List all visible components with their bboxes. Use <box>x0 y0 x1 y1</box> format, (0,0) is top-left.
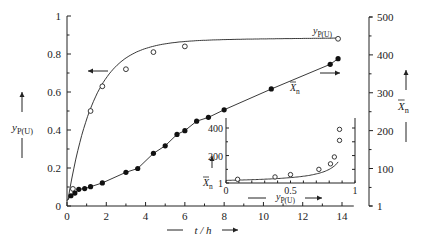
data-point-xn <box>328 62 333 67</box>
inset-data-point <box>337 127 341 131</box>
right-tick-label: 500 <box>377 11 394 23</box>
inset-curve <box>226 162 338 181</box>
x-tick-label: 2 <box>104 210 110 222</box>
inset-y-tick-label: 1 <box>218 178 223 189</box>
x-tick-label: 4 <box>143 210 149 222</box>
svg-text:Xn: Xn <box>397 100 409 115</box>
inset-data-point <box>332 155 336 159</box>
right-tick-label: 400 <box>377 49 394 61</box>
left-tick-label: 0.6 <box>47 86 61 98</box>
data-point-xn <box>194 119 199 124</box>
data-point-yp <box>336 36 341 41</box>
inset-data-point <box>288 172 292 176</box>
right-axis-label: Xn <box>397 100 409 115</box>
svg-text:yP(U): yP(U) <box>11 121 33 136</box>
svg-text:yP(U): yP(U) <box>312 25 333 39</box>
x-tick-label: 10 <box>258 210 270 222</box>
inset-data-point <box>328 162 332 166</box>
data-point-xn <box>222 107 227 112</box>
data-point-xn <box>123 170 128 175</box>
svg-text:Xn: Xn <box>202 177 213 191</box>
left-axis-label: yP(U) <box>11 121 33 136</box>
right-arrow-icon <box>320 71 340 76</box>
curve-label-yp: yP(U) <box>312 25 333 39</box>
curve-label-xn: Xn <box>289 82 300 96</box>
data-point-xn <box>82 186 87 191</box>
svg-text:Xn: Xn <box>289 82 300 96</box>
data-point-yp <box>124 67 129 72</box>
x-axis-label: t / h <box>194 224 212 236</box>
left-tick-label: 0.4 <box>47 124 61 136</box>
data-point-yp <box>182 44 187 49</box>
inset-data-point <box>273 175 277 179</box>
inset-y-tick-label: 400 <box>208 123 223 134</box>
data-point-xn <box>76 187 81 192</box>
right-arrow-icon <box>305 196 322 201</box>
inset-y-label: Xn <box>202 177 213 191</box>
data-point-xn <box>151 151 156 156</box>
x-tick-label: 0 <box>64 210 70 222</box>
data-point-xn <box>88 184 93 189</box>
main-axes: 00.20.40.60.8102468101214110020030040050… <box>47 10 394 222</box>
data-point-xn <box>182 128 187 133</box>
data-point-yp <box>151 50 156 55</box>
data-point-xn <box>335 56 340 61</box>
data-point-xn <box>135 166 140 171</box>
data-point-xn <box>72 191 77 196</box>
x-tick-label: 8 <box>221 210 227 222</box>
left-arrow-icon <box>88 69 108 74</box>
inset-data-point <box>317 167 321 171</box>
left-tick-label: 1 <box>56 10 62 22</box>
left-tick-label: 0.2 <box>47 162 61 174</box>
data-point-xn <box>174 132 179 137</box>
inset-data-point <box>235 177 239 181</box>
inset-x-tick-label: 0 <box>224 185 229 196</box>
data-point-xn <box>100 180 105 185</box>
right-tick-label: 200 <box>377 125 394 137</box>
left-tick-label: 0 <box>56 200 62 212</box>
data-point-xn <box>269 86 274 91</box>
data-point-yp <box>88 109 93 114</box>
up-arrow-icon <box>404 70 409 90</box>
x-tick-label: 12 <box>297 210 308 222</box>
data-point-xn <box>163 143 168 148</box>
inset-chart: 00.511200400XnyP(U) <box>202 118 358 205</box>
right-tick-label: 300 <box>377 87 394 99</box>
up-arrow-icon <box>20 92 25 112</box>
x-tick-label: 6 <box>182 210 188 222</box>
right-tick-label: 100 <box>377 163 394 175</box>
inset-x-tick-label: 1 <box>353 185 358 196</box>
x-tick-label: 14 <box>337 210 349 222</box>
right-arrow-icon <box>222 228 238 233</box>
right-tick-label: 1 <box>377 200 383 212</box>
left-tick-label: 0.8 <box>47 48 61 60</box>
inset-data-point <box>337 138 341 142</box>
data-point-yp <box>100 84 105 89</box>
chart: 00.20.40.60.8102468101214110020030040050… <box>0 0 425 249</box>
inset-x-tick-label: 0.5 <box>284 185 297 196</box>
data-point-xn <box>206 115 211 120</box>
